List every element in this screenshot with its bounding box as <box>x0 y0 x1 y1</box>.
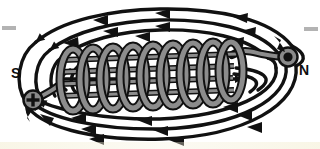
south-pole-label: S <box>11 66 20 80</box>
field-diagram-svg <box>0 0 320 149</box>
bottom-edge-artifact <box>0 142 320 149</box>
right-edge-tick <box>304 27 318 31</box>
left-edge-tick <box>2 26 16 30</box>
electromagnet-diagram: S N <box>0 0 320 149</box>
arrowhead-top-h <box>135 32 150 42</box>
north-pole-label: N <box>299 63 309 77</box>
positive-terminal <box>24 91 43 110</box>
